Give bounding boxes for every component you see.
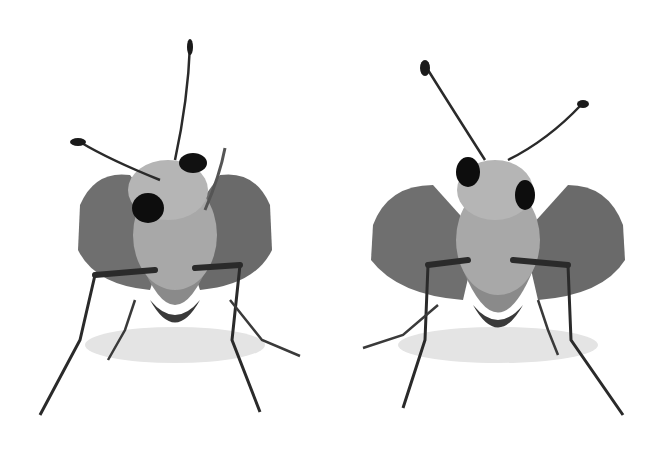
skipper-right [333,0,667,461]
skipper-left [0,0,333,461]
photo-canvas [0,0,667,461]
